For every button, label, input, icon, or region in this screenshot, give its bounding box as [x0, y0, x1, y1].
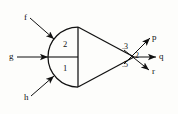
input-arrow-f	[30, 18, 54, 39]
output-value-r: .5	[122, 61, 128, 69]
output-label-r: r	[152, 67, 155, 76]
body-outline	[48, 27, 134, 87]
region-label-2: 2	[63, 40, 67, 49]
input-label-h: h	[24, 93, 29, 102]
output-value-q: .2	[133, 52, 139, 60]
input-label-g: g	[9, 52, 14, 61]
diagram-figure: f g h 2 1 p q r .3 .2 .5	[0, 0, 178, 114]
region-label-1: 1	[63, 64, 67, 73]
input-arrow-h	[31, 76, 54, 96]
output-label-p: p	[152, 33, 157, 42]
input-label-f: f	[24, 13, 27, 22]
output-value-p: .3	[122, 43, 128, 51]
output-label-q: q	[159, 52, 164, 61]
